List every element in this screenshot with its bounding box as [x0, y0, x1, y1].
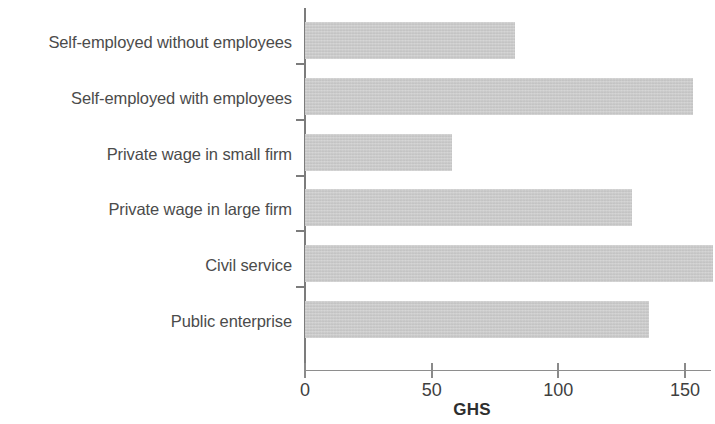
x-axis-tick-100 — [557, 363, 559, 378]
x-axis-title: GHS — [412, 400, 532, 420]
category-label-self-employed-without-employees: Self-employed without employees — [0, 32, 292, 52]
x-axis-tick-150 — [684, 363, 686, 378]
y-axis-tick-3 — [296, 175, 305, 177]
plot-area — [305, 8, 711, 371]
x-axis-line — [305, 370, 711, 371]
x-axis-tick-50 — [431, 363, 433, 378]
y-axis-tick-4 — [296, 230, 305, 232]
category-label-private-wage-small-firm: Private wage in small firm — [0, 144, 292, 164]
x-axis-tick-label-150: 150 — [655, 380, 715, 400]
x-axis-tick-0 — [304, 363, 306, 378]
bar-private-wage-large-firm — [305, 189, 632, 226]
bar-self-employed-without-employees — [305, 22, 515, 59]
y-axis-tick-2 — [296, 119, 305, 121]
bar-self-employed-with-employees — [305, 78, 693, 115]
category-label-private-wage-large-firm: Private wage in large firm — [0, 199, 292, 219]
y-axis-tick-5 — [296, 286, 305, 288]
category-label-public-enterprise: Public enterprise — [0, 311, 292, 331]
x-axis-tick-label-50: 50 — [402, 380, 462, 400]
y-axis-tick-1 — [296, 63, 305, 65]
x-axis-tick-label-0: 0 — [275, 380, 335, 400]
category-label-self-employed-with-employees: Self-employed with employees — [0, 88, 292, 108]
bar-public-enterprise — [305, 301, 649, 338]
bar-private-wage-small-firm — [305, 134, 452, 171]
x-axis-tick-label-100: 100 — [528, 380, 588, 400]
category-label-civil-service: Civil service — [0, 255, 292, 275]
bar-civil-service — [305, 245, 713, 282]
